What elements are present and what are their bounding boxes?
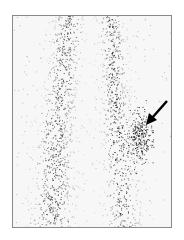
scintigraphy-limbs (13, 16, 171, 227)
scan-image-frame (12, 15, 172, 228)
